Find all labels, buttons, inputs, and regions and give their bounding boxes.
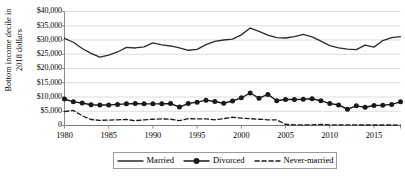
data-point-marker: [71, 99, 76, 104]
data-point-marker: [221, 101, 226, 106]
legend-swatch-line-with-marker-icon: [183, 156, 210, 166]
data-point-marker: [310, 96, 315, 101]
data-point-marker: [89, 102, 94, 107]
data-point-marker: [203, 98, 208, 103]
legend-swatch-solid-line-icon: [117, 156, 144, 166]
data-point-marker: [230, 98, 235, 103]
data-point-marker: [274, 98, 279, 103]
gridlines: [65, 12, 401, 112]
data-point-marker: [159, 101, 164, 106]
legend-swatch-dashed-line-icon: [254, 156, 281, 166]
data-point-marker: [97, 102, 102, 107]
data-point-marker: [168, 101, 173, 106]
data-point-marker: [371, 103, 376, 108]
data-point-marker: [115, 102, 120, 107]
legend-label: Married: [147, 156, 174, 165]
data-point-marker: [318, 98, 323, 103]
data-point-marker: [150, 101, 155, 106]
series-line-never-married: [65, 110, 401, 125]
data-point-marker: [398, 99, 403, 104]
data-point-marker: [354, 103, 359, 108]
data-point-marker: [345, 107, 350, 112]
data-point-marker: [327, 101, 332, 106]
data-point-marker: [380, 103, 385, 108]
legend-item-never-married[interactable]: Never-married: [254, 156, 334, 166]
data-point-marker: [336, 102, 341, 107]
series-line-married: [65, 28, 401, 57]
plot-area: [0, 0, 405, 177]
data-point-marker: [301, 97, 306, 102]
data-point-marker: [62, 96, 67, 101]
data-point-marker: [363, 105, 368, 110]
data-point-marker: [106, 102, 111, 107]
data-point-marker: [283, 97, 288, 102]
data-point-marker: [186, 101, 191, 106]
legend-label: Divorced: [213, 156, 245, 165]
data-point-marker: [257, 96, 262, 101]
data-point-marker: [292, 97, 297, 102]
legend-item-divorced[interactable]: Divorced: [183, 156, 245, 166]
data-point-marker: [80, 100, 85, 105]
data-point-marker: [248, 91, 253, 96]
data-point-marker: [177, 104, 182, 109]
legend-item-married[interactable]: Married: [117, 156, 174, 166]
data-point-marker: [142, 101, 147, 106]
chart-legend: MarriedDivorcedNever-married: [113, 152, 337, 169]
data-series-layer: [62, 28, 403, 125]
data-point-marker: [195, 100, 200, 105]
data-point-marker: [212, 99, 217, 104]
legend-label: Never-married: [284, 156, 334, 165]
data-point-marker: [133, 101, 138, 106]
data-point-marker: [239, 95, 244, 100]
data-point-marker: [124, 101, 129, 106]
data-point-marker: [265, 92, 270, 97]
data-point-marker: [389, 102, 394, 107]
income-decile-line-chart: Bottom income decile in 2018 dollars 0$5…: [0, 0, 405, 177]
